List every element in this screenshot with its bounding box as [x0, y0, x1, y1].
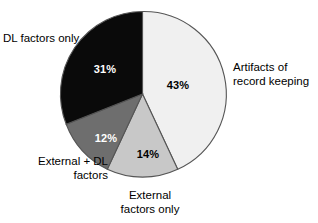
pie-label-external-factors-only: External factors only	[98, 188, 202, 217]
slice-value-dl-factors-only: 31%	[94, 63, 116, 75]
pie-label-dl-factors-only: DL factors only	[3, 31, 79, 45]
slice-value-external-plus-dl: 12%	[95, 132, 117, 144]
slice-value-artifacts: 43%	[167, 79, 189, 91]
pie-chart-figure: 43% 14% 12% 31% Artifacts of record keep…	[0, 0, 318, 223]
pie-label-external-plus-dl: External + DL factors	[2, 154, 108, 183]
slice-value-external-factors-only: 14%	[137, 148, 159, 160]
pie-label-artifacts: Artifacts of record keeping	[233, 60, 309, 89]
